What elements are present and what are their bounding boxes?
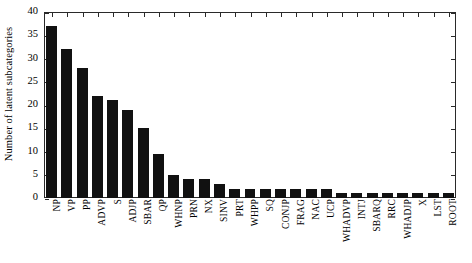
bar [306, 189, 317, 198]
x-axis-tick-label: WHADVP [334, 199, 349, 261]
x-axis-tick-labels: NPVPPPADVPSADJPSBARQPWHNPPRNNXSINVPRTWHP… [44, 199, 456, 263]
bar [214, 184, 225, 198]
bar [443, 193, 454, 198]
x-axis-tick-label: ADJP [120, 199, 135, 261]
bars-layer [44, 12, 456, 198]
bar [260, 189, 271, 198]
bar [92, 96, 103, 198]
y-axis-tick-label: 0 [0, 192, 38, 202]
x-axis-tick-label: INTJ [349, 199, 364, 261]
bar [397, 193, 408, 198]
x-axis-tick-label: VP [59, 199, 74, 261]
bar [183, 179, 194, 198]
x-axis-tick-label: SQ [258, 199, 273, 261]
y-axis-tick-label: 5 [0, 169, 38, 179]
bar [245, 189, 256, 198]
y-axis-tick-label: 30 [0, 53, 38, 63]
x-axis-tick-label: WHPP [242, 199, 257, 261]
bar [138, 128, 149, 198]
x-axis-tick-label: PRT [227, 199, 242, 261]
bar [290, 189, 301, 198]
y-axis-tick-label: 15 [0, 122, 38, 132]
bar [229, 189, 240, 198]
bar [107, 100, 118, 198]
x-axis-tick-label: PRN [181, 199, 196, 261]
x-axis-tick-label: ROOT [441, 199, 456, 261]
x-axis-tick-label: NP [44, 199, 59, 261]
bar [351, 193, 362, 198]
bar [367, 193, 378, 198]
bar [153, 154, 164, 198]
x-axis-tick-label: WHADJP [395, 199, 410, 261]
bar [336, 193, 347, 198]
y-axis-tick-label: 35 [0, 29, 38, 39]
bar [428, 193, 439, 198]
bar [321, 189, 332, 198]
x-axis-tick-label: UCP [319, 199, 334, 261]
x-axis-tick-label: RRC [380, 199, 395, 261]
bar-chart: Number of latent subcategories 051015202… [0, 0, 472, 263]
x-axis-tick-label: PP [75, 199, 90, 261]
bar [122, 110, 133, 198]
bar [199, 179, 210, 198]
x-axis-tick-label: WHNP [166, 199, 181, 261]
x-axis-tick-label-text: ROOT [448, 199, 458, 226]
bar [412, 193, 423, 198]
y-axis-tick-label: 10 [0, 146, 38, 156]
bar [61, 49, 72, 198]
bar [275, 189, 286, 198]
bar [382, 193, 393, 198]
x-axis-tick-label: SBAR [136, 199, 151, 261]
bar [77, 68, 88, 198]
x-axis-tick-label: FRAG [288, 199, 303, 261]
x-axis-tick-label: LST [425, 199, 440, 261]
x-axis-tick-label: X [410, 199, 425, 261]
y-axis-tick-label: 20 [0, 99, 38, 109]
y-axis-tick-labels: 0510152025303540 [0, 0, 40, 263]
bar [46, 26, 57, 198]
x-axis-tick-label: NX [197, 199, 212, 261]
x-axis-tick-label: QP [151, 199, 166, 261]
y-axis-tick-label: 25 [0, 76, 38, 86]
x-axis-tick-label: S [105, 199, 120, 261]
y-axis-tick-label: 40 [0, 6, 38, 16]
x-axis-tick-label: SINV [212, 199, 227, 261]
bar [168, 175, 179, 198]
x-axis-tick-label: SBARQ [364, 199, 379, 261]
x-axis-tick-label: NAC [303, 199, 318, 261]
x-axis-tick-label: ADVP [90, 199, 105, 261]
x-axis-tick-label: CONJP [273, 199, 288, 261]
